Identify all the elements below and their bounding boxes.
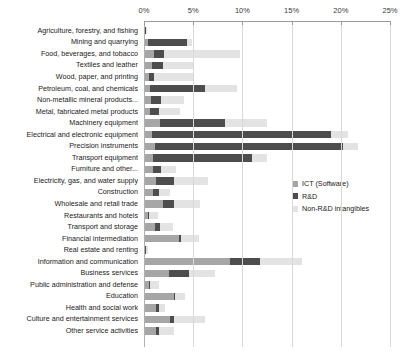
stacked-bar xyxy=(144,258,302,265)
category-label: Non-metallic mineral products... xyxy=(0,96,138,104)
chart-row: Health and social work xyxy=(0,302,405,314)
chart-row: Textiles and leather xyxy=(0,60,405,72)
category-label: Health and social work xyxy=(0,304,138,312)
chart-row: Financial intermediation xyxy=(0,233,405,245)
chart-row: Information and communication xyxy=(0,256,405,268)
x-axis-tick-label: 5% xyxy=(188,6,199,15)
category-label: Business services xyxy=(0,269,138,277)
bar-segment-ict xyxy=(144,119,160,126)
bar-segment-nonrnd xyxy=(174,316,205,323)
stacked-bar xyxy=(144,235,199,242)
gridline xyxy=(242,25,243,347)
category-label: Other service activities xyxy=(0,327,138,335)
chart-row: Petroleum, coal, and chemicals xyxy=(0,83,405,95)
category-label: Furniture and other... xyxy=(0,165,138,173)
chart-row: Non-metallic mineral products... xyxy=(0,94,405,106)
x-axis-line xyxy=(144,21,390,22)
category-label: Food, beverages, and tobacco xyxy=(0,50,138,58)
chart-row: Precision instruments xyxy=(0,140,405,152)
stacked-bar xyxy=(144,73,193,80)
bar-segment-ict xyxy=(144,316,170,323)
category-label: Public administration and defense xyxy=(0,281,138,289)
category-label: Agriculture, forestry, and fishing xyxy=(0,27,138,35)
chart-row: Transport and storage xyxy=(0,221,405,233)
stacked-bar xyxy=(144,223,173,230)
bar-segment-nonrnd xyxy=(146,246,148,253)
category-label: Precision instruments xyxy=(0,142,138,150)
stacked-bar xyxy=(144,131,348,138)
bar-segment-nonrnd xyxy=(174,200,201,207)
legend-swatch-icon xyxy=(292,206,298,212)
x-axis-tick-label: 20% xyxy=(333,6,348,15)
chart-row: Culture and entertainment services xyxy=(0,314,405,326)
bar-segment-rnd xyxy=(153,154,252,161)
bar-segment-rnd xyxy=(150,85,205,92)
bar-segment-nonrnd xyxy=(343,143,358,150)
category-label: Machinery equipment xyxy=(0,119,138,127)
bar-segment-nonrnd xyxy=(159,189,170,196)
stacked-bar xyxy=(144,189,170,196)
category-label: Education xyxy=(0,292,138,300)
category-label: Electrical and electronic equipment xyxy=(0,131,138,139)
legend-swatch-icon xyxy=(292,181,298,187)
stacked-bar xyxy=(144,304,165,311)
stacked-bar xyxy=(144,281,159,288)
bar-segment-nonrnd xyxy=(161,166,177,173)
bar-segment-rnd xyxy=(154,50,164,57)
bar-segment-nonrnd xyxy=(163,62,194,69)
bar-segment-rnd xyxy=(153,166,161,173)
bar-segment-rnd xyxy=(152,131,331,138)
gridline xyxy=(390,25,391,347)
bar-segment-nonrnd xyxy=(260,258,302,265)
bar-segment-nonrnd xyxy=(160,223,173,230)
bar-segment-rnd xyxy=(151,96,161,103)
bar-segment-rnd xyxy=(156,177,174,184)
category-label: Wholesale and retail trade xyxy=(0,200,138,208)
bar-segment-rnd xyxy=(148,39,187,46)
legend-item-ict[interactable]: ICT (Software) xyxy=(292,178,369,189)
bar-segment-ict xyxy=(144,166,153,173)
bar-segment-ict xyxy=(144,327,156,334)
bar-segment-ict xyxy=(144,96,151,103)
stacked-bar xyxy=(144,166,176,173)
gridline xyxy=(341,25,342,347)
legend-item-rnd[interactable]: R&D xyxy=(292,191,369,202)
gridline xyxy=(193,25,194,347)
chart-row: Business services xyxy=(0,267,405,279)
category-label: Transport equipment xyxy=(0,154,138,162)
bar-segment-nonrnd xyxy=(225,119,267,126)
category-label: Electricity, gas, and water supply xyxy=(0,177,138,185)
chart-row: Furniture and other... xyxy=(0,164,405,176)
chart-row: Public administration and defense xyxy=(0,279,405,291)
category-label: Information and communication xyxy=(0,258,138,266)
bar-segment-rnd xyxy=(169,270,190,277)
bar-segment-nonrnd xyxy=(150,281,159,288)
bar-segment-ict xyxy=(144,62,152,69)
bar-segment-ict xyxy=(144,200,163,207)
bar-segment-ict xyxy=(144,154,153,161)
stacked-bar xyxy=(144,316,205,323)
stacked-bar xyxy=(144,119,267,126)
bar-segment-nonrnd xyxy=(205,85,237,92)
category-label: Restaurants and hotels xyxy=(0,212,138,220)
bar-segment-nonrnd xyxy=(164,50,241,57)
bar-segment-nonrnd xyxy=(154,73,193,80)
x-axis-tick-label: 25% xyxy=(382,6,397,15)
chart-row: Real estate and renting xyxy=(0,244,405,256)
stacked-bar xyxy=(144,212,158,219)
legend-item-nonrnd[interactable]: Non-R&D intangibles xyxy=(292,203,369,214)
chart-legend: ICT (Software)R&DNon-R&D intangibles xyxy=(292,178,369,216)
gridline xyxy=(292,25,293,347)
legend-label: R&D xyxy=(302,191,317,202)
category-label: Mining and quarrying xyxy=(0,38,138,46)
stacked-bar xyxy=(144,85,237,92)
category-label: Textiles and leather xyxy=(0,61,138,69)
category-label: Real estate and renting xyxy=(0,246,138,254)
category-label: Petroleum, coal, and chemicals xyxy=(0,85,138,93)
chart-row: Agriculture, forestry, and fishing xyxy=(0,25,405,37)
stacked-bar xyxy=(144,200,200,207)
stacked-bar xyxy=(144,270,215,277)
chart-row: Food, beverages, and tobacco xyxy=(0,48,405,60)
bar-segment-nonrnd xyxy=(331,131,348,138)
bar-segment-nonrnd xyxy=(175,293,185,300)
